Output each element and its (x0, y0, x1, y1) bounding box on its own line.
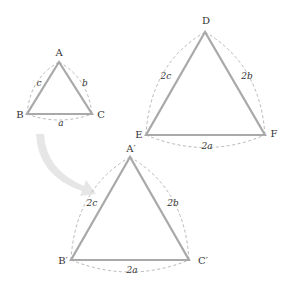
vertex-label-e: E (135, 129, 142, 140)
side-label-c: c (36, 78, 41, 88)
triangle-a-prime-b-prime-c-prime: A′ B′ C′ 2c 2b 2a (58, 143, 209, 275)
triangle-def-shape (146, 32, 265, 135)
vertex-label-b: B (16, 109, 23, 120)
side-label-2c-prime: 2c (86, 198, 98, 208)
side-label-2b-prime: 2b (166, 198, 179, 208)
triangle-def: D E F 2c 2b 2a (135, 15, 277, 151)
triangle-abc: A B C c b a (16, 47, 105, 128)
vertex-label-c: C (97, 109, 105, 120)
side-label-a: a (58, 118, 63, 128)
triangle-abc-shape (27, 62, 92, 114)
side-label-2b: 2b (240, 71, 253, 81)
curved-arrow-icon (36, 134, 96, 196)
side-label-2c: 2c (160, 71, 172, 81)
vertex-label-f: F (271, 128, 278, 139)
side-label-2a-prime: 2a (125, 265, 137, 275)
side-label-2a: 2a (200, 141, 212, 151)
vertex-label-a: A (54, 47, 63, 58)
similar-triangles-diagram: A B C c b a D E F 2c 2b 2a A′ B′ C′ 2c 2… (0, 0, 295, 294)
vertex-label-a-prime: A′ (125, 143, 136, 154)
vertex-label-b-prime: B′ (58, 255, 68, 266)
side-label-b: b (82, 78, 88, 88)
vertex-label-d: D (202, 15, 210, 26)
triangle-a-prime-shape (71, 157, 189, 260)
vertex-label-c-prime: C′ (198, 255, 209, 266)
